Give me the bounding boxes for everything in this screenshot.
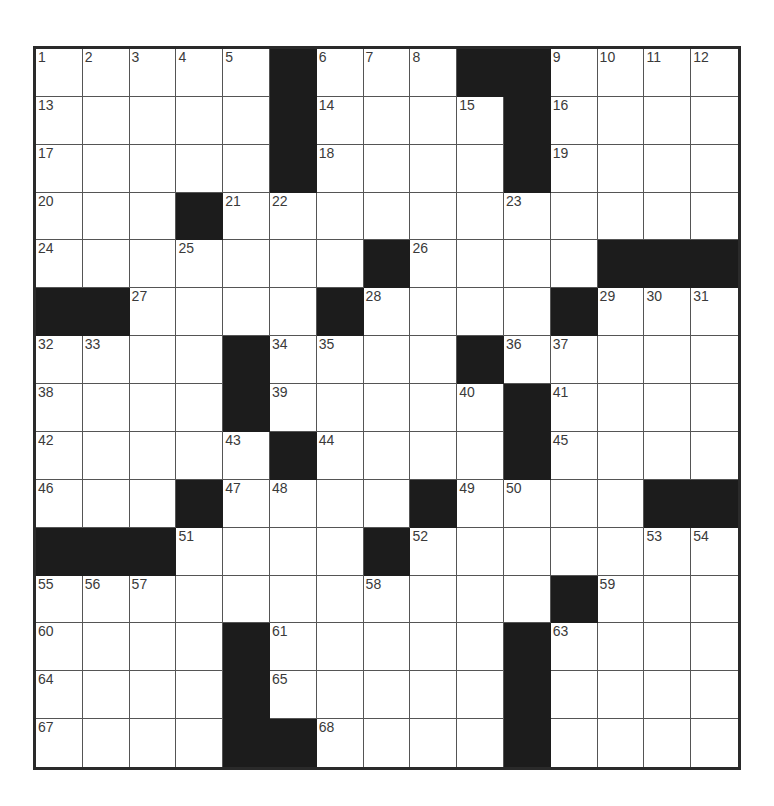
crossword-cell[interactable]: 20 [36,193,83,241]
crossword-cell[interactable] [504,288,551,336]
crossword-cell[interactable]: 14 [317,97,364,145]
crossword-cell[interactable] [130,240,177,288]
crossword-cell[interactable]: 40 [457,384,504,432]
crossword-cell[interactable] [176,384,223,432]
crossword-cell[interactable]: 67 [36,719,83,767]
crossword-cell[interactable] [504,576,551,624]
crossword-cell[interactable] [598,528,645,576]
crossword-cell[interactable]: 64 [36,671,83,719]
crossword-cell[interactable]: 68 [317,719,364,767]
crossword-cell[interactable] [83,719,130,767]
crossword-cell[interactable]: 52 [410,528,457,576]
crossword-cell[interactable] [410,384,457,432]
crossword-cell[interactable] [317,576,364,624]
crossword-cell[interactable] [457,671,504,719]
crossword-cell[interactable] [176,336,223,384]
crossword-cell[interactable] [551,193,598,241]
crossword-cell[interactable] [83,240,130,288]
crossword-cell[interactable] [551,719,598,767]
crossword-cell[interactable]: 50 [504,480,551,528]
crossword-cell[interactable] [410,145,457,193]
crossword-cell[interactable] [644,193,691,241]
crossword-cell[interactable]: 22 [270,193,317,241]
crossword-cell[interactable]: 38 [36,384,83,432]
crossword-cell[interactable] [691,145,738,193]
crossword-cell[interactable] [130,336,177,384]
crossword-cell[interactable]: 56 [83,576,130,624]
crossword-cell[interactable]: 45 [551,432,598,480]
crossword-cell[interactable]: 34 [270,336,317,384]
crossword-cell[interactable] [364,432,411,480]
crossword-cell[interactable]: 57 [130,576,177,624]
crossword-cell[interactable] [644,145,691,193]
crossword-cell[interactable] [364,384,411,432]
crossword-cell[interactable] [130,432,177,480]
crossword-cell[interactable]: 24 [36,240,83,288]
crossword-cell[interactable]: 41 [551,384,598,432]
crossword-cell[interactable]: 53 [644,528,691,576]
crossword-cell[interactable] [223,576,270,624]
crossword-cell[interactable] [270,240,317,288]
crossword-cell[interactable]: 13 [36,97,83,145]
crossword-cell[interactable] [457,576,504,624]
crossword-cell[interactable] [457,145,504,193]
crossword-cell[interactable] [317,528,364,576]
crossword-cell[interactable] [598,719,645,767]
crossword-cell[interactable] [176,145,223,193]
crossword-cell[interactable]: 31 [691,288,738,336]
crossword-cell[interactable] [317,193,364,241]
crossword-cell[interactable]: 18 [317,145,364,193]
crossword-cell[interactable] [598,671,645,719]
crossword-cell[interactable]: 46 [36,480,83,528]
crossword-cell[interactable] [504,528,551,576]
crossword-cell[interactable] [270,576,317,624]
crossword-cell[interactable]: 4 [176,49,223,97]
crossword-cell[interactable] [364,336,411,384]
crossword-cell[interactable] [364,480,411,528]
crossword-cell[interactable] [691,719,738,767]
crossword-cell[interactable] [598,480,645,528]
crossword-cell[interactable] [457,528,504,576]
crossword-cell[interactable] [317,480,364,528]
crossword-cell[interactable] [598,336,645,384]
crossword-cell[interactable] [83,623,130,671]
crossword-cell[interactable]: 1 [36,49,83,97]
crossword-cell[interactable]: 29 [598,288,645,336]
crossword-cell[interactable] [130,623,177,671]
crossword-cell[interactable]: 36 [504,336,551,384]
crossword-cell[interactable] [130,145,177,193]
crossword-cell[interactable] [457,432,504,480]
crossword-cell[interactable] [691,671,738,719]
crossword-cell[interactable] [551,480,598,528]
crossword-cell[interactable]: 32 [36,336,83,384]
crossword-cell[interactable] [130,97,177,145]
crossword-cell[interactable] [598,623,645,671]
crossword-cell[interactable]: 54 [691,528,738,576]
crossword-cell[interactable] [364,145,411,193]
crossword-cell[interactable]: 49 [457,480,504,528]
crossword-cell[interactable] [130,384,177,432]
crossword-cell[interactable]: 25 [176,240,223,288]
crossword-cell[interactable] [644,97,691,145]
crossword-cell[interactable] [364,719,411,767]
crossword-cell[interactable]: 16 [551,97,598,145]
crossword-cell[interactable] [410,671,457,719]
crossword-cell[interactable] [644,671,691,719]
crossword-cell[interactable]: 26 [410,240,457,288]
crossword-cell[interactable] [223,288,270,336]
crossword-cell[interactable]: 33 [83,336,130,384]
crossword-cell[interactable] [691,97,738,145]
crossword-cell[interactable] [130,193,177,241]
crossword-cell[interactable] [551,671,598,719]
crossword-cell[interactable] [130,671,177,719]
crossword-cell[interactable] [270,288,317,336]
crossword-cell[interactable]: 21 [223,193,270,241]
crossword-cell[interactable] [410,719,457,767]
crossword-cell[interactable]: 12 [691,49,738,97]
crossword-cell[interactable] [223,145,270,193]
crossword-cell[interactable] [176,97,223,145]
crossword-cell[interactable]: 63 [551,623,598,671]
crossword-cell[interactable] [317,240,364,288]
crossword-cell[interactable] [644,336,691,384]
crossword-cell[interactable] [83,480,130,528]
